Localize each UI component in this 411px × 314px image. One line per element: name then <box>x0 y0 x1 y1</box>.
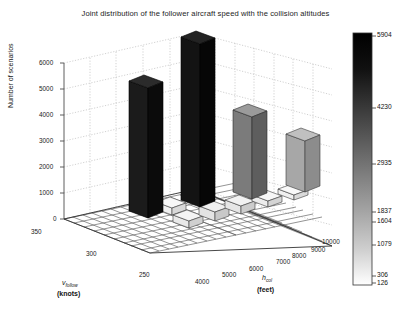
colorbar-tick-1837: 1837 <box>377 207 392 214</box>
z-tick-6000: 6000 <box>39 59 53 66</box>
colorbar-tick-1079: 1079 <box>377 240 392 247</box>
x-tick-10000: 10000 <box>322 238 340 245</box>
colorbar-tick-2935: 2935 <box>377 159 392 166</box>
z-tick-5000: 5000 <box>39 85 53 92</box>
bar-5904 <box>181 31 215 207</box>
x-axis-label: hcol <box>262 274 272 283</box>
bar-4230 <box>129 75 163 218</box>
x-axis-unit: (feet) <box>257 286 274 293</box>
colorbar-tick-4230: 4230 <box>377 103 392 110</box>
plot-canvas <box>0 0 411 314</box>
z-axis <box>60 33 196 219</box>
z-axis-label: Number of scenarios <box>7 43 14 108</box>
x-tick-4000: 4000 <box>195 278 209 285</box>
z-tick-1000: 1000 <box>39 189 53 196</box>
x-tick-8000: 8000 <box>292 252 306 259</box>
y-axis-label-sub: follow <box>66 283 78 288</box>
x-tick-7000: 7000 <box>276 258 290 265</box>
colorbar-tick-306: 306 <box>377 271 388 278</box>
z-tick-2000: 2000 <box>39 163 53 170</box>
x-tick-6000: 6000 <box>249 265 263 272</box>
chart-figure: Joint distribution of the follower aircr… <box>0 0 411 314</box>
y-tick-250: 250 <box>139 271 150 278</box>
x-axis-label-sub: col <box>266 278 272 283</box>
y-tick-350: 350 <box>31 228 42 235</box>
bar-1837 <box>286 128 320 192</box>
y-axis-label: vfollow <box>62 279 78 288</box>
y-tick-300: 300 <box>86 250 97 257</box>
colorbar-tick-5904: 5904 <box>377 31 392 38</box>
colorbar <box>353 33 376 285</box>
bar-2935 <box>233 104 267 199</box>
x-tick-5000: 5000 <box>222 271 236 278</box>
z-tick-3000: 3000 <box>39 137 53 144</box>
colorbar-tick-126: 126 <box>377 279 388 286</box>
z-tick-0: 0 <box>53 215 57 222</box>
y-axis-unit: (knots) <box>57 290 80 297</box>
x-tick-9000: 9000 <box>311 246 325 253</box>
colorbar-tick-1604: 1604 <box>377 217 392 224</box>
z-tick-4000: 4000 <box>39 111 53 118</box>
